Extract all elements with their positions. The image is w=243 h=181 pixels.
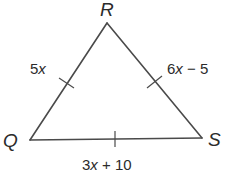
triangle-diagram: R Q S 5x 6x − 5 3x + 10 bbox=[0, 0, 243, 181]
side-label-QR: 5x bbox=[30, 60, 46, 77]
side-QR bbox=[30, 23, 107, 140]
vertex-label-Q: Q bbox=[3, 130, 18, 151]
side-label-QS-rest: + 10 bbox=[98, 156, 132, 173]
side-label-RS: 6x − 5 bbox=[167, 60, 208, 77]
vertex-label-S: S bbox=[208, 129, 221, 150]
side-label-RS-coef: 6 bbox=[167, 60, 175, 77]
vertex-label-R: R bbox=[100, 0, 114, 20]
side-label-QS: 3x + 10 bbox=[82, 156, 132, 173]
side-QS bbox=[30, 138, 202, 140]
side-label-RS-rest: − 5 bbox=[183, 60, 208, 77]
side-label-QR-coef: 5 bbox=[30, 60, 38, 77]
side-RS bbox=[107, 23, 202, 138]
side-label-QS-coef: 3 bbox=[82, 156, 90, 173]
tick-mark-QR bbox=[59, 78, 74, 88]
side-label-QR-var: x bbox=[37, 60, 46, 77]
